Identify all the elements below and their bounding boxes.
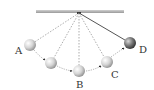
string-a2 — [51, 13, 79, 63]
label-a: A — [14, 45, 23, 56]
arrow-a2-to-b — [57, 66, 72, 71]
pendulum-bob-a — [24, 39, 36, 51]
label-d: D — [139, 44, 147, 55]
label-b: B — [76, 79, 83, 90]
arrow-b-to-c — [86, 66, 101, 71]
pendulum-bob-d — [124, 37, 136, 49]
pendulum-bob-b — [73, 65, 85, 77]
string-c — [79, 13, 107, 62]
pendulum-bob-c — [101, 56, 113, 68]
arrow-a-to-a2 — [34, 50, 45, 60]
pendulum-diagram: A B C D — [0, 0, 154, 90]
pendulum-bob-intermediate — [45, 57, 57, 69]
strings — [30, 13, 130, 71]
arrow-c-to-d — [111, 48, 124, 57]
string-d — [79, 13, 130, 43]
string-a — [30, 13, 79, 45]
label-c: C — [111, 69, 119, 80]
